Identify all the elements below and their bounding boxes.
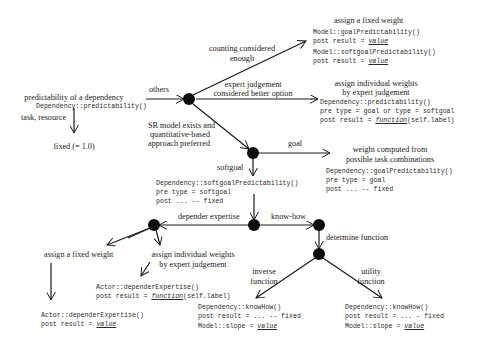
edge-n4-individual [156,230,160,245]
sr-label-1-text: SR model exists and [148,121,215,130]
fixed-weight-top-title: assign a fixed weight [334,17,403,26]
junction-node-n4 [148,219,160,231]
fixed-weight-top-code-4: post result = value [313,57,388,67]
inverse-code-2: post result = ... -- fixed [198,312,301,322]
depender-label: depender expertise [178,213,240,222]
code-text: post result = [320,117,375,124]
decision-diagram: predictability of a dependency Dependenc… [0,0,484,349]
fixed-label: fixed (= 1.0) [53,143,94,152]
value-text: value [404,323,424,330]
sr-label-2-text: quantitative-based [150,130,210,139]
inverse-code-3: Model::slope = value [198,322,277,332]
code-text: Model::slope = [198,323,257,330]
fixed-weight-top-code-2: post result = value [313,37,388,47]
function-text: function [151,293,183,300]
value-text: value [368,38,388,45]
knowhow-label: know-how [271,213,306,222]
junction-node-n6 [313,248,325,260]
junction-node-n3 [248,219,260,231]
junction-node-n5 [313,219,325,231]
edge-individual-to-actor [141,262,150,276]
goal-weight-title-1: weight computed from [353,146,428,155]
sr-label-3-text: approach preferred [148,139,210,148]
value-text: value [96,321,116,328]
inverse-label-2: function [250,278,277,287]
code-text: (self.label) [407,117,454,124]
root-code: Dependency::predictability() [36,102,147,112]
code-text: post result = [96,293,151,300]
utility-code-3: Model::slope = value [345,322,424,332]
junction-node-n1 [183,93,195,105]
code-text: post result = [313,58,368,65]
edge-n4-tail [128,228,150,238]
counting-label-2: enough [230,55,254,64]
goal-weight-title-2: possible task combinations [346,156,434,165]
fixed-weight-bottom-title: assign a fixed weight [44,251,113,260]
individual-top-code-3: post result = function(self.label) [320,116,455,126]
code-text: Model::slope = [345,323,404,330]
others-label: others [149,86,169,95]
code-text: (self.label) [183,293,230,300]
code-text: post result = [313,38,368,45]
utility-label-1: utility [361,268,381,277]
junction-node-n2 [247,147,259,159]
expert-label-2: considered better option [213,90,292,99]
fixed-weight-bottom-code-2: post result = value [41,320,116,330]
task-resource-label: task, resource [21,114,66,123]
softgoal-label: softgoal [217,164,243,173]
sr-label-3: approach preferred [148,140,210,149]
goal-weight-code-3: post ... -- fixed [326,185,393,195]
inverse-label-1: inverse [252,268,276,277]
individual-bottom-code-2: post result = function(self.label) [96,292,231,302]
value-text: value [257,323,277,330]
utility-code-2: post result = ... - fixed [345,312,444,322]
value-text: value [368,58,388,65]
utility-label-2: function [357,278,384,287]
individual-bottom-title-2: by expert judgement [159,261,226,270]
counting-label-1: counting considered [209,45,275,54]
function-text: function [375,117,407,124]
individual-top-title-2: by expert judgement [342,89,409,98]
individual-bottom-title-1: assign individual weights [151,251,234,260]
code-text: post result = [41,321,96,328]
goal-label: goal [288,140,302,149]
softgoal-code-3: post ... -- fixed [156,197,223,207]
determine-label: determine function [326,234,388,243]
